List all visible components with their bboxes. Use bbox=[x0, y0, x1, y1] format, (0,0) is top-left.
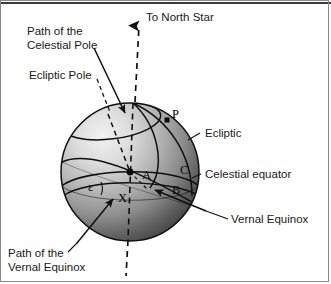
figure-canvas: To North Star Path of the Celestial Pole… bbox=[0, 0, 331, 284]
label-ecliptic-pole: Ecliptic Pole bbox=[29, 69, 92, 81]
obliquity-angle-label: ε bbox=[88, 180, 93, 194]
point-p-marker bbox=[165, 118, 170, 123]
label-path-vernal-equinox-line2: Vernal Equinox bbox=[8, 261, 86, 273]
label-path-celestial-pole-line2: Celestial Pole bbox=[27, 39, 97, 51]
leader-path-celestial-pole bbox=[94, 48, 125, 113]
label-ecliptic: Ecliptic bbox=[205, 127, 242, 139]
rotation-axis-upper bbox=[135, 26, 139, 102]
rotation-axis-lower bbox=[126, 240, 128, 276]
celestial-sphere-diagram: To North Star Path of the Celestial Pole… bbox=[0, 0, 331, 284]
point-label-a: A bbox=[142, 168, 151, 182]
leader-vernal-equinox-tail bbox=[206, 211, 228, 219]
label-celestial-equator: Celestial equator bbox=[205, 168, 291, 180]
point-label-p: P bbox=[172, 107, 179, 121]
label-path-vernal-equinox-line1: Path of the bbox=[8, 247, 64, 259]
leader-path-vernal-equinox-tail bbox=[68, 242, 78, 252]
label-vernal-equinox: Vernal Equinox bbox=[231, 213, 309, 225]
leader-ecliptic-pole bbox=[97, 79, 110, 112]
point-label-x: X bbox=[118, 191, 127, 205]
point-a-marker bbox=[127, 169, 134, 176]
label-north-star: To North Star bbox=[146, 11, 214, 23]
label-path-celestial-pole-line1: Path of the bbox=[27, 25, 83, 37]
point-label-b: B bbox=[172, 183, 180, 197]
point-label-c: C bbox=[180, 163, 188, 177]
